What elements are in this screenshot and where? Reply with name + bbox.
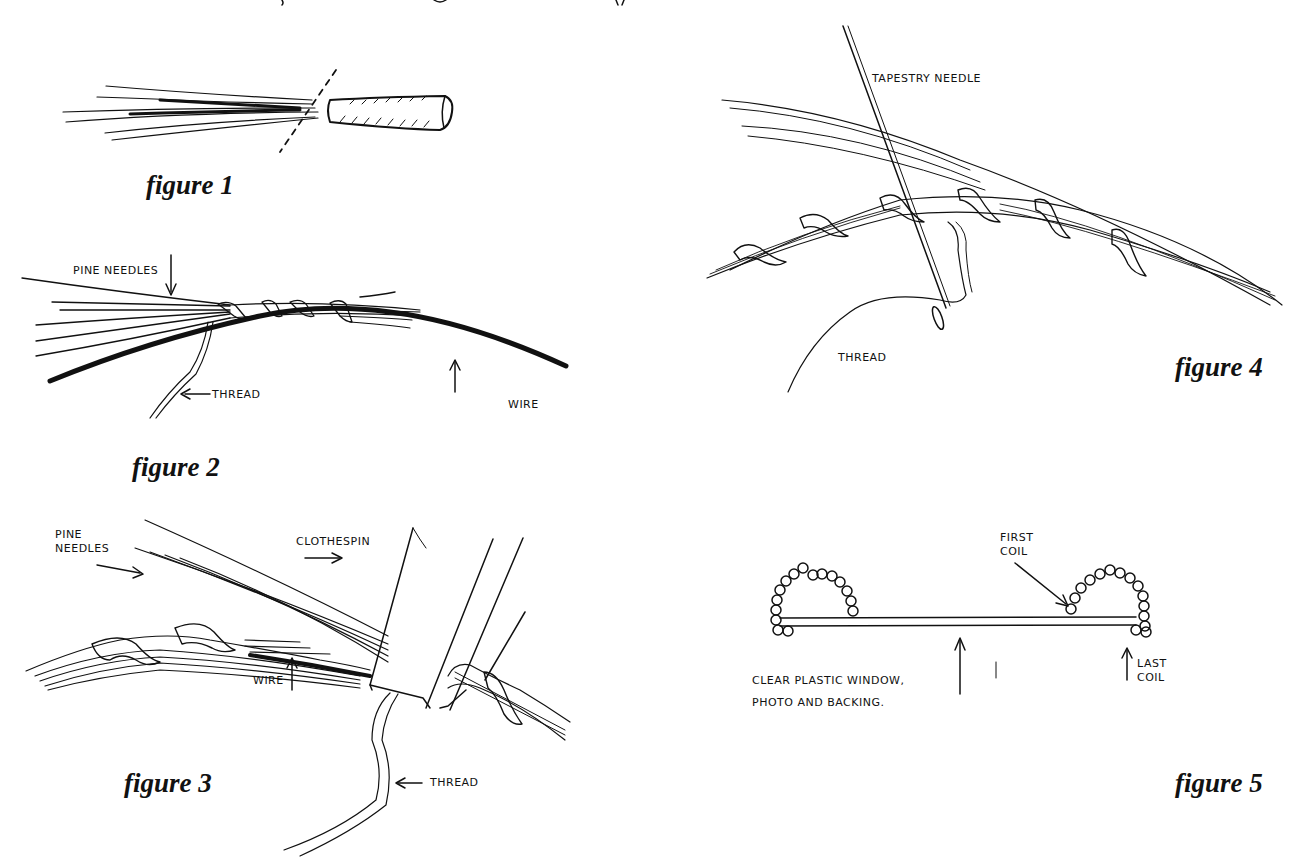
figure-3-label-clothespin: CLOTHESPIN (296, 535, 370, 549)
figure-3-label-thread: THREAD (430, 776, 479, 790)
figure-3-label-wire: WIRE (253, 674, 284, 688)
figure-4-label-thread: THREAD (838, 351, 887, 365)
figure-1-caption: figure 1 (146, 170, 234, 201)
figure-3-drawing (26, 520, 570, 856)
figure-2-label-pine-needles: PINE NEEDLES (73, 264, 158, 278)
figure-2-caption: figure 2 (132, 452, 220, 483)
figure-5-label-clear-plastic-window: CLEAR PLASTIC WINDOW, PHOTO AND BACKING. (752, 670, 904, 714)
figure-1-drawing (63, 70, 452, 152)
figure-4-caption: figure 4 (1175, 352, 1263, 383)
left-coil-arch (771, 563, 858, 636)
figure-5-label-first-coil: FIRST COIL (1000, 531, 1033, 559)
figure-4-drawing (707, 26, 1282, 392)
figure-4-label-tapestry-needle: TAPESTRY NEEDLE (872, 72, 981, 86)
figure-2-drawing (22, 255, 566, 418)
illustration-canvas (0, 0, 1308, 859)
cut-off-text-fragment (282, 0, 624, 5)
figure-3-label-pine-needles: PINE NEEDLES (55, 528, 109, 556)
figure-5-caption: figure 5 (1175, 768, 1263, 799)
figure-3-caption: figure 3 (124, 768, 212, 799)
right-coil-arch (1066, 565, 1151, 637)
figure-2-label-thread: THREAD (212, 388, 261, 402)
figure-5-label-last-coil: LAST COIL (1137, 657, 1167, 685)
figure-2-label-wire: WIRE (508, 398, 539, 412)
